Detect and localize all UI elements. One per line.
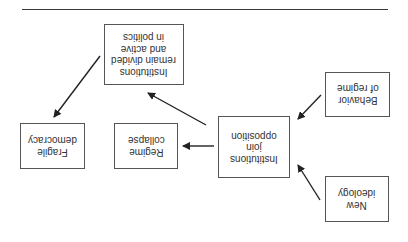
node-label: Fragile democracy [28, 135, 77, 158]
node-label: Institutions remain divided and active i… [111, 32, 176, 78]
node-label: New ideology [338, 188, 375, 211]
node-fragile-democracy: Fragile democracy [20, 123, 85, 169]
node-institutions-join-opposition: Institutions join opposition [218, 116, 290, 178]
arrow-divided-to-fragile [54, 56, 100, 117]
node-regime-collapse: Regime collapse [114, 123, 178, 169]
node-new-ideology: New ideology [325, 176, 389, 222]
node-label: Institutions join opposition [230, 130, 278, 165]
node-behavior-of-regime: Behavior of regime [325, 72, 390, 117]
arrow-join-to-divided [148, 93, 206, 125]
node-institutions-remain-divided: Institutions remain divided and active i… [104, 24, 184, 85]
node-label: Behavior of regime [337, 83, 379, 106]
diagram-canvas: Institutions remain divided and active i… [0, 0, 408, 242]
node-label: Regime collapse [128, 135, 165, 158]
arrow-behavior-to-join [298, 95, 321, 119]
arrow-ideology-to-join [298, 165, 320, 200]
